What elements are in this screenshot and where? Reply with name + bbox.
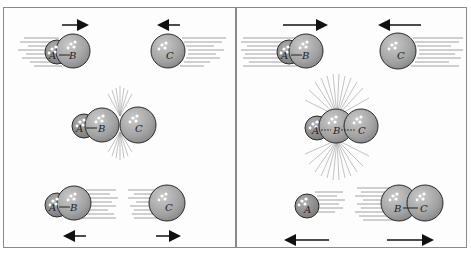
atom-label-a: A bbox=[280, 50, 288, 61]
atom-label-c: C bbox=[420, 203, 428, 214]
left-panel-illustration: A B C bbox=[4, 8, 237, 249]
atom-label-a: A bbox=[75, 123, 83, 134]
atom-label-b: B bbox=[69, 202, 77, 213]
atom-label-b: B bbox=[68, 50, 76, 61]
atom-label-c: C bbox=[166, 50, 174, 61]
panel-reactive-collision: A B C bbox=[236, 7, 467, 248]
atom-label-c: C bbox=[358, 125, 366, 136]
atom-label-b: B bbox=[332, 125, 340, 136]
right-panel-illustration: A B C bbox=[237, 8, 468, 249]
atom-label-b: B bbox=[393, 203, 401, 214]
atom-label-b: B bbox=[97, 123, 105, 134]
panel-unreactive-collision: A B C bbox=[3, 7, 236, 248]
atom-label-a: A bbox=[48, 202, 56, 213]
atom-label-a: A bbox=[311, 125, 319, 136]
atom-label-c: C bbox=[397, 50, 405, 61]
atom-label-a: A bbox=[48, 50, 56, 61]
motion-lines-icon bbox=[315, 192, 345, 212]
molecule-bc bbox=[381, 185, 443, 221]
atom-label-a: A bbox=[303, 204, 311, 215]
motion-lines-icon bbox=[411, 38, 463, 66]
atom-label-c: C bbox=[135, 123, 143, 134]
atom-label-c: C bbox=[165, 202, 173, 213]
motion-lines-icon bbox=[180, 38, 226, 66]
molecule-ab-c-collision bbox=[72, 107, 156, 143]
atom-label-b: B bbox=[301, 50, 309, 61]
